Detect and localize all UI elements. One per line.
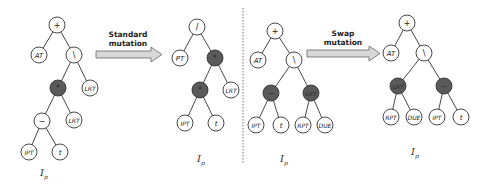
tree-node: IPT [429, 109, 445, 125]
tree-caption: Ip [279, 153, 288, 167]
tree-node: t [453, 109, 469, 125]
node-label: LRT [68, 117, 81, 124]
tree-node: DUE [406, 109, 422, 125]
tree-node: RPT [383, 109, 399, 125]
node-label: − [39, 117, 46, 126]
node-label: t [460, 114, 463, 122]
node-label: IPT [432, 114, 442, 121]
tree-node: AT [31, 47, 47, 63]
tree-node: t [273, 117, 289, 133]
node-label: AT [253, 57, 263, 65]
node-label: DUE [319, 122, 332, 129]
tree-node: t [208, 115, 224, 131]
node-label: AT [34, 52, 44, 60]
node-label: + [404, 19, 411, 28]
node-label: IPT [180, 120, 190, 127]
tree-caption: Ip [39, 167, 48, 181]
mutated-tree-node: LRT [303, 85, 319, 101]
trees-layer: +AT\*LRT−LRTIPTtIp/PT**LRTIPTtIp+AT\−LRT… [21, 15, 469, 181]
node-label: RPT [297, 122, 310, 129]
tree-node: − [34, 113, 50, 129]
tree-node: + [49, 17, 65, 33]
tree-node: PT [172, 50, 188, 66]
node-label: − [441, 82, 448, 91]
tree-node: AT [250, 52, 266, 68]
tree-node: LRT [223, 82, 239, 98]
node-label: LRT [225, 87, 238, 94]
tree-node: \ [66, 47, 82, 63]
tree-node: RPT [295, 117, 311, 133]
tree-node: IPT [21, 144, 37, 160]
mutated-tree-node: − [263, 85, 279, 101]
tree-node: LRT [66, 112, 82, 128]
node-label: AT [386, 50, 396, 58]
arrow-right-icon [307, 46, 380, 61]
standard-mutation-arrow: Standard mutation [96, 30, 162, 62]
node-label: / [196, 23, 199, 32]
node-label: t [215, 120, 218, 128]
tree-node: IPT [177, 115, 193, 131]
tree-node: + [399, 15, 415, 31]
tree-swap-after: +AT\LRT−RPTDUEIPTtIp [383, 15, 469, 160]
node-label: t [280, 122, 283, 130]
tree-node: IPT [248, 117, 264, 133]
tree-node: DUE [317, 117, 333, 133]
tree-caption: Ip [410, 146, 419, 160]
tree-node: / [189, 19, 205, 35]
node-label: + [54, 21, 61, 30]
tree-node: LRT [82, 80, 98, 96]
node-label: * [198, 86, 202, 95]
node-label: RPT [385, 114, 398, 121]
mutated-tree-node: * [50, 80, 66, 96]
node-label: − [268, 89, 275, 98]
node-label: * [56, 84, 60, 93]
node-label: IPT [24, 149, 34, 156]
node-label: LRT [305, 90, 318, 97]
mutated-tree-node: * [207, 50, 223, 66]
tree-node: \ [416, 45, 432, 61]
arrow-right-icon [96, 47, 162, 62]
node-label: DUE [408, 114, 421, 121]
node-label: IPT [251, 122, 261, 129]
mutated-tree-node: − [436, 78, 452, 94]
tree-standard-after: /PT**LRTIPTtIp [172, 19, 239, 167]
node-label: \ [73, 51, 76, 60]
node-label: + [272, 27, 279, 36]
standard-mutation-label-line2: mutation [109, 39, 147, 48]
mutation-diagram: +AT\*LRT−LRTIPTtIp/PT**LRTIPTtIp+AT\−LRT… [0, 0, 484, 187]
mutated-tree-node: * [192, 82, 208, 98]
standard-mutation-label-line1: Standard [109, 30, 148, 39]
node-label: * [213, 54, 217, 63]
node-label: \ [293, 56, 296, 65]
tree-caption: Ip [196, 153, 205, 167]
node-label: PT [176, 55, 185, 63]
tree-node: \ [286, 52, 302, 68]
node-label: \ [423, 49, 426, 58]
swap-mutation-arrow: Swap mutation [307, 29, 380, 61]
tree-node: + [267, 23, 283, 39]
tree-node: t [52, 144, 68, 160]
tree-standard-before: +AT\*LRT−LRTIPTtIp [21, 17, 98, 181]
mutated-tree-node: LRT [390, 78, 406, 94]
node-label: LRT [84, 85, 97, 92]
tree-swap-before: +AT\−LRTIPTtRPTDUEIp [248, 23, 333, 167]
swap-mutation-label-line2: mutation [324, 38, 362, 47]
node-label: t [59, 149, 62, 157]
node-label: LRT [392, 83, 405, 90]
tree-node: AT [383, 45, 399, 61]
swap-mutation-label-line1: Swap [332, 29, 355, 38]
